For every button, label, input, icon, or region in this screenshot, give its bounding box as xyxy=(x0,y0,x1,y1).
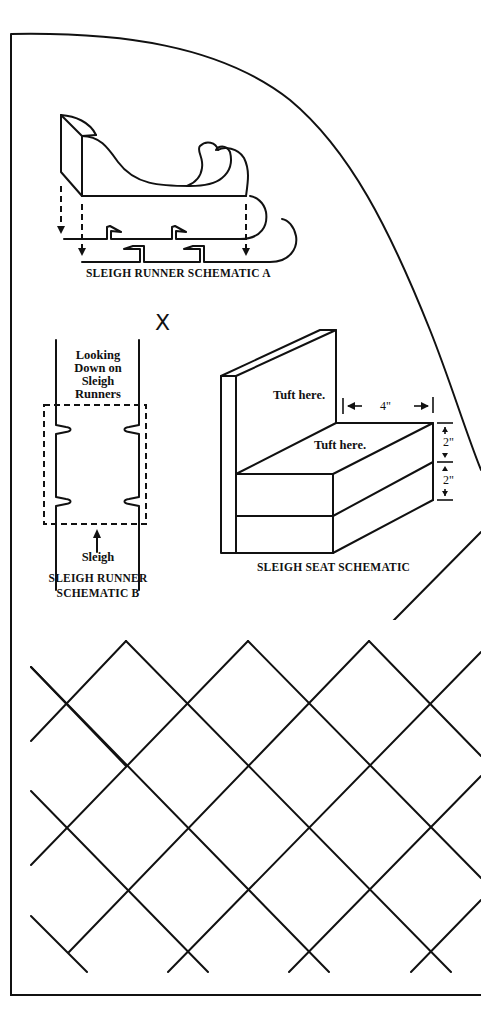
schematic-b-caption-line1: SLEIGH RUNNER xyxy=(48,572,148,584)
bottom-height-dimension: 2" xyxy=(443,473,454,488)
top-height-dimension: 2" xyxy=(443,435,454,450)
note-line-4: Runners xyxy=(62,388,134,401)
schematic-a-caption: SLEIGH RUNNER SCHEMATIC A xyxy=(86,267,271,279)
quilting-lattice-grid xyxy=(0,0,481,1010)
seat-tuft-note: Tuft here. xyxy=(314,439,366,452)
sleigh-arrow-label: Sleigh xyxy=(62,551,134,564)
looking-down-note: Looking Down on Sleigh Runners xyxy=(62,349,134,401)
schematic-b-caption-line2: SCHEMATIC B xyxy=(48,587,148,599)
seat-schematic-caption: SLEIGH SEAT SCHEMATIC xyxy=(257,561,410,573)
back-tuft-note: Tuft here. xyxy=(273,389,325,402)
width-dimension: 4" xyxy=(380,399,391,414)
x-mark: X xyxy=(155,310,170,335)
